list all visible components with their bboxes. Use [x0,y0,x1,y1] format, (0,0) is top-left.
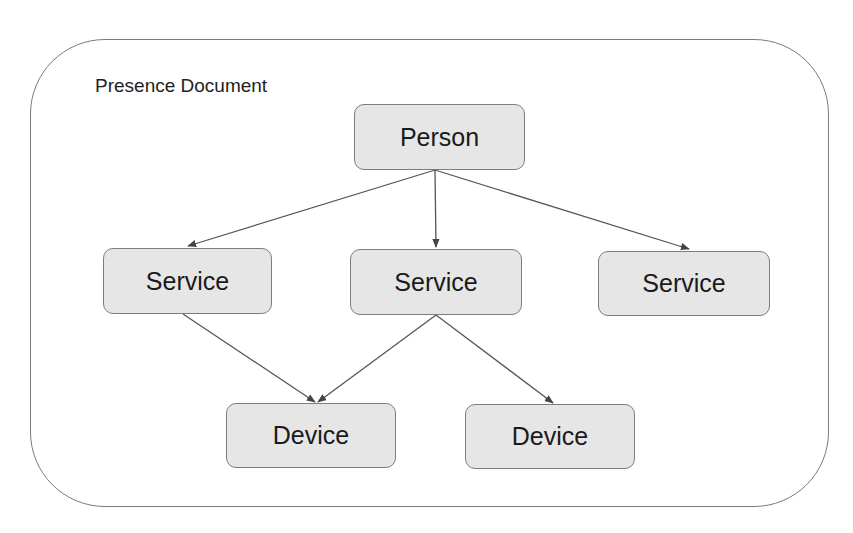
node-label: Device [273,421,349,450]
node-label: Service [394,268,477,297]
node-service-3: Service [598,251,770,316]
node-label: Service [642,269,725,298]
node-label: Service [146,267,229,296]
node-service-2: Service [350,249,522,315]
node-device-1: Device [226,403,396,468]
node-label: Person [400,123,479,152]
node-service-1: Service [103,248,272,314]
container-title: Presence Document [95,75,267,97]
node-label: Device [512,422,588,451]
node-device-2: Device [465,404,635,469]
node-person: Person [354,104,525,170]
